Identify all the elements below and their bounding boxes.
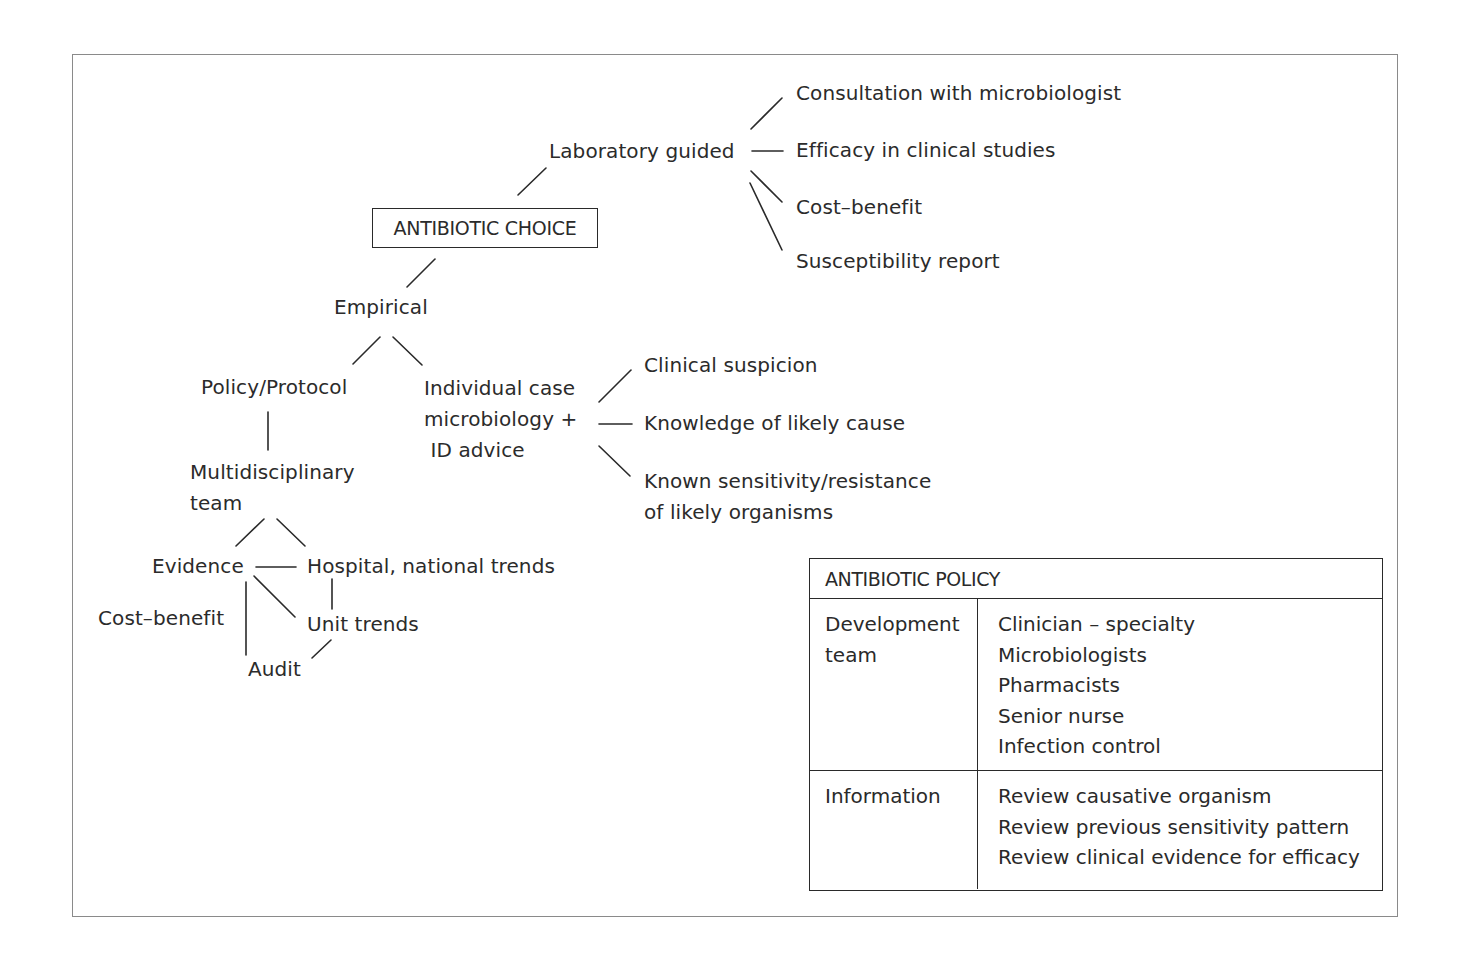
consultation-node: Consultation with microbiologist: [796, 78, 1121, 109]
policy-value: Pharmacists: [998, 670, 1195, 701]
policy-row-values: Clinician – specialty Microbiologists Ph…: [978, 599, 1195, 770]
policy-cost-benefit-node: Cost–benefit: [98, 603, 224, 634]
policy-value: Infection control: [998, 731, 1195, 762]
policy-value: Review causative organism: [998, 781, 1360, 812]
antibiotic-choice-node: ANTIBIOTIC CHOICE: [372, 208, 598, 248]
hospital-trends-node: Hospital, national trends: [307, 551, 555, 582]
policy-table-title: ANTIBIOTIC POLICY: [810, 559, 1382, 599]
audit-node: Audit: [248, 654, 301, 685]
policy-value: Senior nurse: [998, 701, 1195, 732]
clinical-suspicion-node: Clinical suspicion: [644, 350, 818, 381]
policy-row-key: Development team: [810, 599, 978, 770]
efficacy-node: Efficacy in clinical studies: [796, 135, 1056, 166]
policy-row-information: Information Review causative organism Re…: [810, 771, 1382, 889]
policy-value: Clinician – specialty: [998, 609, 1195, 640]
antibiotic-policy-table: ANTIBIOTIC POLICY Development team Clini…: [809, 558, 1383, 891]
known-sensitivity-node: Known sensitivity/resistance of likely o…: [644, 466, 931, 528]
empirical-node: Empirical: [334, 292, 428, 323]
multidisciplinary-team-node: Multidisciplinary team: [190, 457, 355, 519]
policy-value: Review previous sensitivity pattern: [998, 812, 1360, 843]
laboratory-guided-node: Laboratory guided: [549, 136, 735, 167]
policy-value: Microbiologists: [998, 640, 1195, 671]
policy-row-key: Information: [810, 771, 978, 889]
policy-value: Review clinical evidence for efficacy: [998, 842, 1360, 873]
evidence-node: Evidence: [152, 551, 244, 582]
likely-cause-node: Knowledge of likely cause: [644, 408, 905, 439]
lab-cost-benefit-node: Cost–benefit: [796, 192, 922, 223]
policy-row-development-team: Development team Clinician – specialty M…: [810, 599, 1382, 771]
policy-protocol-node: Policy/Protocol: [201, 372, 347, 403]
unit-trends-node: Unit trends: [307, 609, 419, 640]
susceptibility-report-node: Susceptibility report: [796, 246, 1000, 277]
individual-case-node: Individual case microbiology + ID advice: [424, 373, 577, 466]
policy-row-values: Review causative organism Review previou…: [978, 771, 1360, 889]
